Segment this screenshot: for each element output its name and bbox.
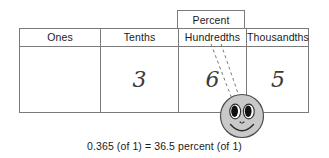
percent-callout-box: Percent xyxy=(177,10,245,28)
place-value-table: Ones Tenths Hundredths Thousandths 3 6 5 xyxy=(19,28,309,113)
column-header-tenths: Tenths xyxy=(101,29,178,46)
column-header-hundredths: Hundredths xyxy=(179,29,246,46)
digit-cell-tenths: 3 xyxy=(101,46,178,113)
digit-cell-ones xyxy=(20,46,100,113)
percent-callout-label: Percent xyxy=(178,11,244,29)
column-header-ones: Ones xyxy=(20,29,100,46)
column-header-thousandths: Thousandths xyxy=(247,29,309,46)
smiley-face-icon xyxy=(219,93,265,139)
figure-caption: 0.365 (of 1) = 36.5 percent (of 1) xyxy=(0,140,329,152)
place-value-figure: Percent Ones Tenths Hundredths Thousandt… xyxy=(0,0,329,158)
